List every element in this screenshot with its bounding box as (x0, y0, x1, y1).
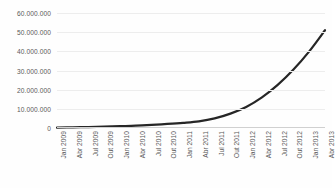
plot-area (57, 13, 325, 128)
x-axis-tick-label: Jul 2010 (155, 131, 162, 156)
y-axis-tick-label: 30.000.000 (17, 67, 51, 74)
x-axis-tick-label: Jul 2009 (92, 131, 99, 156)
x-axis-tick-label: Jul 2012 (281, 131, 288, 156)
x-axis-tick-label: Jan 2010 (123, 131, 130, 159)
x-axis-tick-label: Jul 2011 (218, 131, 225, 156)
x-axis-tick-label: Jan 2013 (312, 131, 319, 159)
x-axis-line (57, 127, 325, 128)
x-axis-tick-label: Abr 2013 (328, 131, 335, 158)
gridline (57, 71, 325, 72)
x-axis-tick-label: Out 2009 (107, 131, 114, 159)
gridline (57, 32, 325, 33)
y-axis-tick-label: 20.000.000 (17, 86, 51, 93)
x-axis-tick-label: Abr 2009 (76, 131, 83, 158)
y-axis-tick-label: 10.000.000 (17, 105, 51, 112)
y-axis-tick-label: 0 (47, 125, 51, 132)
y-axis-tick-label: 40.000.000 (17, 48, 51, 55)
y-axis-labels: 010.000.00020.000.00030.000.00040.000.00… (0, 0, 53, 188)
x-axis-tick-label: Out 2010 (170, 131, 177, 159)
y-axis-tick-label: 50.000.000 (17, 29, 51, 36)
gridline (57, 13, 325, 14)
x-axis-tick-label: Abr 2012 (265, 131, 272, 158)
x-axis-tick-label: Jan 2011 (186, 131, 193, 158)
line-series-path (57, 30, 325, 127)
gridline (57, 109, 325, 110)
x-axis-labels: Jan 2009Abr 2009Jul 2009Out 2009Jan 2010… (57, 131, 325, 188)
y-axis-tick-label: 60.000.000 (17, 10, 51, 17)
x-axis-tick-label: Abr 2010 (139, 131, 146, 158)
x-axis-tick-label: Jan 2009 (60, 131, 67, 159)
x-axis-tick-label: Out 2012 (296, 131, 303, 159)
x-axis-tick-label: Jan 2012 (249, 131, 256, 159)
x-axis-tick-label: Abr 2011 (202, 131, 209, 158)
gridline (57, 90, 325, 91)
gridline (57, 51, 325, 52)
x-axis-tick-label: Out 2011 (233, 131, 240, 158)
